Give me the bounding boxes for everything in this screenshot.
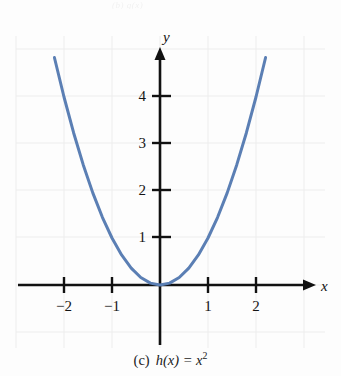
figure-caption: (c)h(x) = x2 [0,350,341,369]
caption-formula: h(x) = x2 [156,352,208,368]
y-axis-label: y [161,29,170,45]
y-axis [155,47,166,345]
x-tick-label--1: −1 [104,298,120,314]
y-axis-ticks [152,96,171,237]
y-tick-label-4: 4 [139,88,147,104]
y-tick-label-1: 1 [139,229,147,245]
caption-index: (c) [134,352,150,368]
caption-formula-base: h(x) = x [156,352,203,368]
x-tick-label-2: 2 [252,298,260,314]
y-tick-label-3: 3 [139,135,147,151]
parabola-plot: y x −2 −1 1 2 1 2 3 4 [0,0,341,376]
x-tick-label--2: −2 [56,298,72,314]
x-axis-label: x [320,278,328,294]
caption-formula-exponent: 2 [203,350,208,361]
figure-panel: (b) g(x) [0,0,341,376]
x-axis-arrowhead [303,280,316,291]
x-tick-label-1: 1 [204,298,212,314]
y-tick-label-2: 2 [139,182,147,198]
